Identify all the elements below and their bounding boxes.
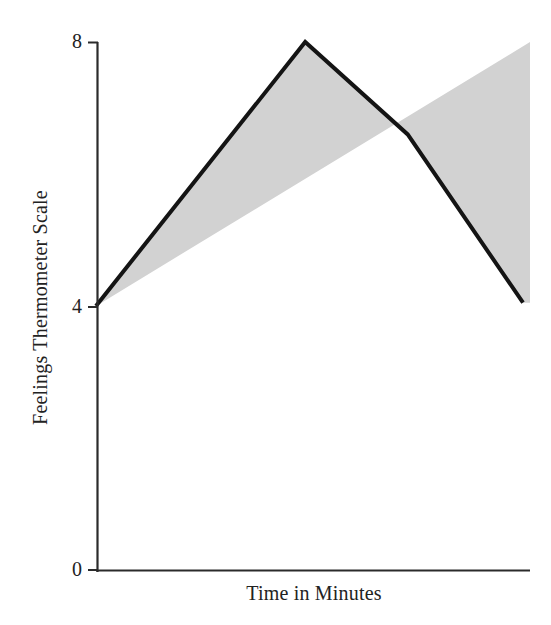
shaded-area-above-line [96,42,530,306]
chart-canvas [0,0,551,625]
